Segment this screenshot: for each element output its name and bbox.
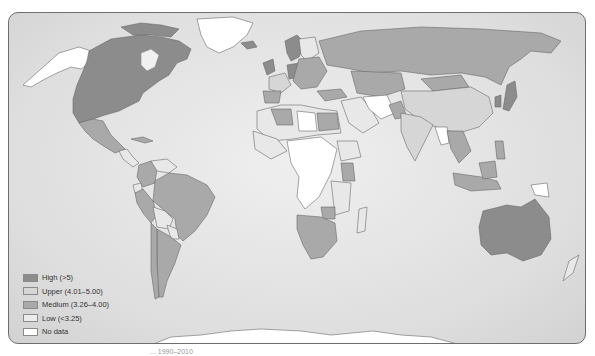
region-east-europe: [293, 57, 327, 89]
region-southern-africa: [297, 215, 337, 259]
map-legend: High (>5) Upper (4.01–5.00) Medium (3.26…: [23, 271, 109, 339]
region-caribbean: [131, 137, 153, 143]
region-arctic-islands: [121, 23, 179, 37]
region-turkey: [317, 89, 347, 101]
region-greenland: [197, 17, 253, 53]
region-brazil: [153, 173, 215, 241]
legend-swatch-high: [23, 274, 38, 282]
region-uk: [263, 59, 275, 75]
region-zimbabwe: [321, 207, 335, 219]
legend-label: No data: [42, 327, 68, 336]
region-central-africa: [287, 137, 337, 209]
legend-item-low: Low (<3.25): [23, 312, 109, 325]
region-japan: [503, 81, 517, 111]
region-kenya: [341, 163, 355, 181]
region-mexico: [79, 119, 125, 153]
legend-swatch-no-data: [23, 328, 38, 336]
legend-item-upper: Upper (4.01–5.00): [23, 285, 109, 298]
region-indochina: [447, 131, 471, 163]
map-frame: High (>5) Upper (4.01–5.00) Medium (3.26…: [8, 12, 586, 344]
legend-item-medium: Medium (3.26–4.00): [23, 298, 109, 311]
region-new-zealand: [563, 255, 579, 281]
region-central-america: [119, 149, 139, 167]
region-egypt: [317, 113, 339, 131]
legend-swatch-low: [23, 314, 38, 322]
legend-item-high: High (>5): [23, 271, 109, 284]
region-madagascar: [357, 207, 367, 233]
figure-caption: ... 1990–2010: [150, 348, 193, 355]
region-libya: [297, 111, 317, 131]
region-papua: [531, 183, 549, 197]
legend-label: High (>5): [42, 273, 73, 282]
region-ethiopia: [337, 141, 361, 161]
legend-label: Upper (4.01–5.00): [42, 287, 103, 296]
legend-swatch-medium: [23, 301, 38, 309]
region-antarctica: [151, 329, 461, 344]
region-kazakhstan: [351, 71, 405, 97]
region-iceland: [241, 41, 257, 49]
region-borneo: [479, 161, 497, 179]
region-korea: [495, 95, 501, 107]
region-australia: [479, 199, 551, 261]
region-philippines: [495, 141, 505, 159]
region-france: [269, 73, 291, 93]
legend-label: Medium (3.26–4.00): [42, 300, 109, 309]
legend-item-no-data: No data: [23, 325, 109, 338]
region-myanmar: [435, 127, 449, 145]
legend-swatch-upper: [23, 287, 38, 295]
legend-label: Low (<3.25): [42, 314, 82, 323]
region-spain: [263, 91, 281, 103]
region-north-america-high: [73, 35, 191, 123]
